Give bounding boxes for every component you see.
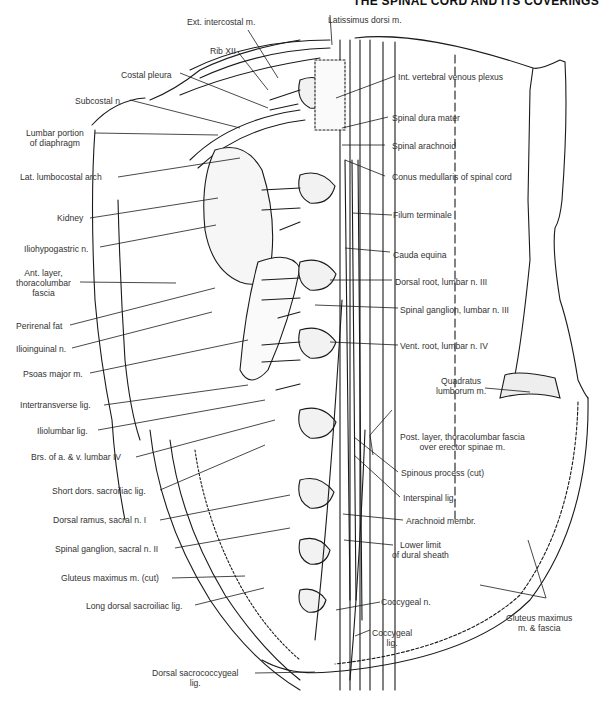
label-coccygeal-lig: Coccygeal lig.: [372, 628, 412, 648]
label-intertransverse-lig: Intertransverse lig.: [20, 400, 91, 410]
label-spinal-ganglion-l3: Spinal ganglion, lumbar n. III: [400, 305, 509, 315]
label-lower-limit-dural: Lower limit of dural sheath: [392, 540, 449, 560]
label-spinal-arachnoid: Spinal arachnoid: [392, 141, 456, 151]
label-lumbar-diaphragm: Lumbar portion of diaphragm: [26, 128, 84, 148]
label-quadratus-lumborum: Quadratus lumborum m.: [436, 376, 486, 396]
label-ant-layer-tlf: Ant. layer, thoracolumbar fascia: [16, 268, 71, 298]
label-spinal-ganglion-s2: Spinal ganglion, sacral n. II: [55, 544, 158, 554]
label-dorsal-sacrococcygeal: Dorsal sacrococcygeal lig.: [152, 668, 238, 688]
label-kidney: Kidney: [57, 213, 83, 223]
label-costal-pleura: Costal pleura: [121, 70, 172, 80]
label-post-layer-tlf: Post. layer, thoracolumbar fascia over e…: [400, 432, 525, 452]
label-spinous-process: Spinous process (cut): [401, 468, 484, 478]
label-rib-xii: Rib XII: [210, 46, 236, 56]
label-dorsal-ramus-s1: Dorsal ramus, sacral n. I: [53, 515, 146, 525]
label-brs-lumbar-iv: Brs. of a. & v. lumbar IV: [31, 452, 121, 462]
label-long-dorsal-sacroiliac: Long dorsal sacroiliac lig.: [86, 601, 183, 611]
label-cauda-equina: Cauda equina: [393, 250, 447, 260]
label-subcostal-n: Subcostal n.: [75, 96, 122, 106]
label-latissimus-dorsi: Latissimus dorsi m.: [328, 15, 402, 25]
label-spinal-dura-mater: Spinal dura mater: [392, 113, 460, 123]
label-interspinal-lig: Interspinal lig.: [403, 493, 456, 503]
fascia-edge: [514, 68, 533, 380]
label-iliolumbar-lig: Iliolumbar lig.: [37, 426, 88, 436]
label-gluteus-max-fascia: Gluteus maximus m. & fascia: [506, 613, 572, 633]
label-psoas-major: Psoas major m.: [23, 369, 83, 379]
label-filum-terminale: Filum terminale: [393, 210, 452, 220]
label-dorsal-root-l3: Dorsal root, lumbar n. III: [395, 277, 487, 287]
label-lat-lumbocostal-arch: Lat. lumbocostal arch: [20, 172, 102, 182]
label-gluteus-max-cut: Gluteus maximus m. (cut): [61, 573, 159, 583]
label-int-vertebral-venous-plexus: Int. vertebral venous plexus: [398, 72, 503, 82]
label-ilioinguinal-n: Ilioinguinal n.: [16, 344, 66, 354]
label-vent-root-l4: Vent. root, lumbar n. IV: [400, 341, 488, 351]
label-ext-intercostal: Ext. intercostal m.: [187, 17, 255, 27]
label-iliohypogastric-n: Iliohypogastric n.: [24, 244, 89, 254]
label-coccygeal-n: Coccygeal n.: [381, 597, 431, 607]
label-perirenal-fat: Perirenal fat: [16, 321, 62, 331]
label-conus-medullaris: Conus medullaris of spinal cord: [392, 172, 512, 182]
label-arachnoid-membr: Arachnoid membr.: [406, 516, 476, 526]
label-short-dors-sacroiliac: Short dors. sacroiliac lig.: [52, 486, 146, 496]
